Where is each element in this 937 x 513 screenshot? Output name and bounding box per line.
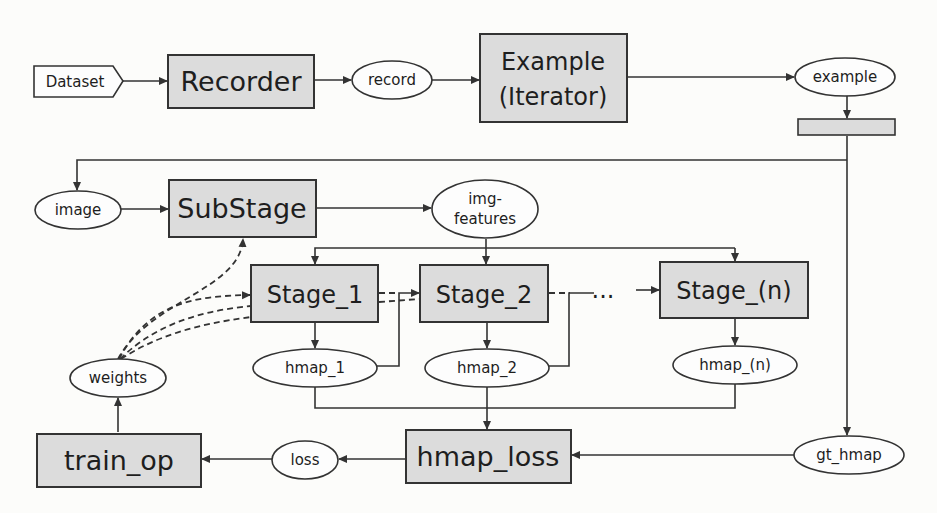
edge-weights-substage-dashed [118,239,243,359]
weights-label: weights [89,369,148,387]
node-hmap-2: hmap_2 [425,349,549,387]
pipeline-diagram: Dataset Recorder record Example (Iterato… [0,0,937,513]
stage-n-label: Stage_(n) [676,277,791,305]
edge-hmap-1-collector [315,384,735,408]
node-splitter [798,119,895,135]
node-dataset: Dataset [34,66,123,97]
node-record: record [352,61,432,99]
edge-hmap-2-next [549,293,594,366]
node-stage-n: Stage_(n) [660,262,808,318]
node-example-iterator: Example (Iterator) [480,34,627,122]
edge-weights-stage-1-dashed-c [121,317,251,359]
node-hmap-1: hmap_1 [253,349,377,387]
hmap-n-label: hmap_(n) [699,356,771,375]
node-loss: loss [272,441,338,479]
hmap-2-label: hmap_2 [457,359,517,378]
substage-label: SubStage [177,193,306,224]
hmap-1-label: hmap_1 [285,359,345,378]
node-weights: weights [70,359,166,397]
stage-2-label: Stage_2 [436,281,533,309]
stage-ellipsis: ... [592,276,615,304]
stage-1-label: Stage_1 [267,281,364,309]
node-hmap-loss: hmap_loss [406,430,571,483]
node-gt-hmap: gt_hmap [794,436,904,474]
recorder-label: Recorder [181,66,303,97]
example-iterator-label-line1: Example [501,48,605,76]
node-example: example [795,58,895,96]
hmap-loss-label: hmap_loss [417,441,560,472]
node-stage-2: Stage_2 [420,265,548,322]
edge-hmap-1-stage-2 [377,293,419,366]
dataset-label: Dataset [46,73,105,91]
loss-label: loss [291,451,320,469]
node-stage-1: Stage_1 [251,265,378,322]
gt-hmap-label: gt_hmap [816,446,882,465]
node-image: image [35,191,121,229]
node-recorder: Recorder [168,55,314,108]
node-hmap-n: hmap_(n) [673,346,797,384]
example-iterator-label-line2: (Iterator) [499,83,608,111]
node-img-features: img- features [432,180,538,238]
record-label: record [368,71,416,89]
example-label: example [813,68,878,86]
node-substage: SubStage [169,180,316,237]
node-train-op: train_op [37,434,201,487]
train-op-label: train_op [64,445,174,476]
image-label: image [55,201,102,219]
img-features-label-line2: features [454,210,516,228]
img-features-label-line1: img- [468,190,502,208]
